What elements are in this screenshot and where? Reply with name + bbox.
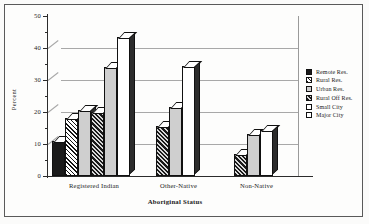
x-axis-line xyxy=(47,176,313,177)
bar-side-face xyxy=(129,32,135,175)
y-axis-tick xyxy=(43,48,48,49)
legend-swatch xyxy=(306,86,312,92)
legend-label: Major City xyxy=(316,112,344,118)
legend-swatch xyxy=(306,112,312,118)
y-axis-tick-label: 0 xyxy=(38,173,42,180)
legend-swatch xyxy=(306,77,312,83)
y-axis-tick xyxy=(43,112,48,113)
legend-item[interactable]: Major City xyxy=(306,111,364,119)
y-axis-tick-label: 40 xyxy=(34,45,41,52)
y-axis-minor-tick xyxy=(45,128,48,129)
legend-label: Small City xyxy=(316,104,343,110)
bar xyxy=(169,107,182,176)
gridline xyxy=(61,48,298,49)
bar xyxy=(156,126,169,176)
x-axis-title: Aboriginal Status xyxy=(148,198,203,205)
gridline-riser xyxy=(48,40,59,49)
legend-swatch xyxy=(306,104,312,110)
bar xyxy=(234,154,247,176)
gridline-riser xyxy=(48,72,59,81)
legend-item[interactable]: Rural Off Res. xyxy=(306,94,364,102)
bar xyxy=(104,67,117,176)
y-axis-minor-tick xyxy=(45,160,48,161)
bar xyxy=(65,118,78,176)
y-axis-tick-label: 50 xyxy=(34,13,41,20)
x-axis-tick-label: Other-Native xyxy=(160,182,197,189)
bar-side-face xyxy=(194,61,200,175)
bar xyxy=(78,110,91,176)
gridline-riser xyxy=(48,104,59,113)
chart-figure: Percent 01020304050 Registered IndianOth… xyxy=(0,0,369,224)
y-axis-tick xyxy=(43,144,48,145)
y-axis-tick xyxy=(43,16,48,17)
x-axis-tick-label: Registered Indian xyxy=(69,182,119,189)
x-axis-tick-label: Non-Native xyxy=(240,182,273,189)
legend-label: Rural Off Res. xyxy=(316,95,352,101)
bar xyxy=(182,66,195,176)
legend-item[interactable]: Rural Res. xyxy=(306,77,364,85)
legend-label: Urban Res. xyxy=(316,86,344,92)
gridline xyxy=(61,80,298,81)
legend-item[interactable]: Small City xyxy=(306,103,364,111)
legend-item[interactable]: Remote Res. xyxy=(306,68,364,76)
bar xyxy=(117,37,130,176)
y-axis-tick xyxy=(43,176,48,177)
bar xyxy=(260,130,273,176)
y-axis-minor-tick xyxy=(45,96,48,97)
bar xyxy=(52,141,65,176)
y-axis-minor-tick xyxy=(45,32,48,33)
bar-side-face xyxy=(272,125,278,175)
bar xyxy=(247,134,260,176)
plot-area: 01020304050 xyxy=(48,16,298,176)
legend-swatch xyxy=(306,69,312,75)
y-axis-title: Percent xyxy=(10,89,17,110)
plot-right-edge xyxy=(298,16,299,176)
legend-label: Remote Res. xyxy=(316,69,348,75)
bar xyxy=(91,112,104,176)
y-axis-minor-tick xyxy=(45,64,48,65)
y-axis-tick-label: 30 xyxy=(34,77,41,84)
y-axis-tick-label: 10 xyxy=(34,141,41,148)
chart-legend: Remote Res.Rural Res.Urban Res.Rural Off… xyxy=(306,68,364,120)
legend-item[interactable]: Urban Res. xyxy=(306,85,364,93)
legend-label: Rural Res. xyxy=(316,77,342,83)
y-axis-tick-label: 20 xyxy=(34,109,41,116)
legend-swatch xyxy=(306,95,312,101)
y-axis-tick xyxy=(43,80,48,81)
